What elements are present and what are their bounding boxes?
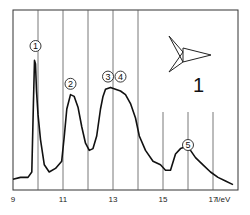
photoelectron-spectrum-chart: 911131517 I/eV 12345 1 [0,0,250,215]
svg-text:5: 5 [185,140,190,150]
svg-text:3: 3 [105,72,110,82]
x-tick-label: 11 [59,195,68,204]
peak-label-5: 5 [183,140,194,151]
peak-label-3: 3 [103,71,114,82]
peak-labels: 12345 [30,41,194,151]
svg-text:4: 4 [118,72,123,82]
x-tick-label: 13 [109,195,118,204]
svg-text:2: 2 [68,79,73,89]
peak-label-1: 1 [30,41,41,52]
x-tick-label: 9 [11,195,16,204]
plot-frame [13,10,238,190]
compound-number: 1 [193,74,204,96]
x-axis-tick-labels: 911131517 [11,195,218,204]
molecule-structure-icon [169,36,211,72]
peak-label-4: 4 [115,71,126,82]
vertical-gridlines [38,10,213,190]
x-axis-label: I/eV [216,195,231,204]
peak-label-2: 2 [65,78,76,89]
svg-text:1: 1 [33,41,38,51]
x-tick-label: 15 [159,195,168,204]
